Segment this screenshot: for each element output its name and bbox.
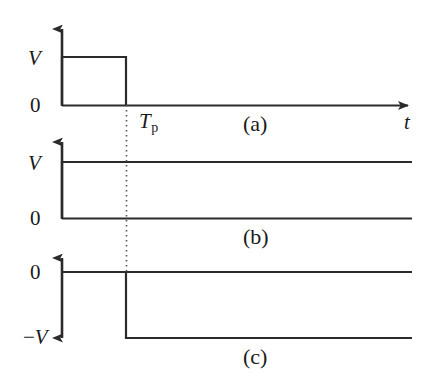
panel-b-signal-trace: [62, 162, 412, 218]
panel-a-amplitude-label: V: [28, 48, 41, 69]
panel-a-zero-label: 0: [30, 95, 41, 116]
panel-b-plot: [62, 142, 412, 219]
panel-c-plot: [62, 258, 412, 338]
panel-c-tag: (c): [243, 346, 267, 368]
waveform-svg: [0, 0, 432, 386]
pulse-width-symbol: T: [139, 109, 151, 133]
panel-b-amplitude-label: V: [28, 153, 41, 174]
panel-c-negative-amplitude-label: −V: [23, 327, 48, 348]
panel-c-signal-trace: [126, 272, 412, 338]
pulse-width-subscript: p: [151, 120, 158, 135]
waveform-figure: V 0 Tp (a) t V 0 (b) 0 −V (c): [0, 0, 432, 386]
panel-a-signal-trace: [62, 57, 126, 105]
pulse-width-label: Tp: [139, 111, 158, 135]
panel-b-zero-label: 0: [30, 208, 41, 229]
panel-a-plot: [62, 29, 408, 106]
panel-b-tag: (b): [243, 226, 269, 248]
panel-c-zero-label: 0: [30, 262, 41, 283]
panel-a-tag: (a): [243, 113, 267, 135]
time-axis-label: t: [404, 112, 410, 133]
